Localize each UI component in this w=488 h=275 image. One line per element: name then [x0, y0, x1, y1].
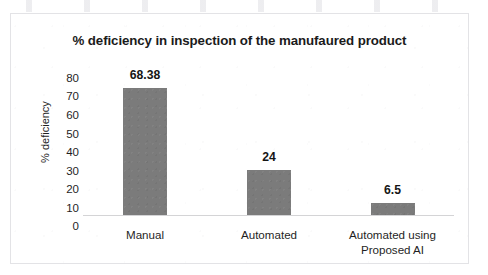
category-label-automated-ai: Automated using Proposed AI	[328, 227, 458, 257]
y-axis-tick-labels: 80 70 60 50 40 30 20 10 0	[51, 14, 79, 265]
scan-noise-band	[0, 0, 488, 12]
chart-figure: % deficiency in inspection of the manufa…	[10, 13, 469, 264]
category-label-automated-line1: Automated	[204, 227, 334, 242]
y-axis-title: % deficiency	[39, 77, 51, 187]
bar-group-automated-ai: 6.5 Automated using Proposed AI	[331, 14, 454, 265]
bar-automated-ai[interactable]	[371, 203, 415, 215]
y-tick-10: 10	[66, 203, 79, 215]
y-tick-60: 60	[66, 110, 79, 122]
category-label-automated-ai-line1: Automated using	[328, 227, 458, 242]
category-label-automated-ai-line2: Proposed AI	[328, 242, 458, 257]
bar-group-automated: 24 Automated	[207, 14, 331, 265]
y-tick-40: 40	[66, 147, 79, 159]
bar-value-automated: 24	[262, 151, 276, 163]
y-tick-50: 50	[66, 129, 79, 141]
y-tick-70: 70	[66, 91, 79, 103]
bar-value-automated-ai: 6.5	[384, 184, 401, 196]
bar-automated[interactable]	[247, 170, 291, 215]
y-tick-80: 80	[66, 73, 79, 85]
category-label-automated: Automated	[204, 227, 334, 242]
bar-manual[interactable]	[123, 88, 167, 215]
y-tick-20: 20	[66, 184, 79, 196]
category-label-manual-line1: Manual	[80, 227, 210, 242]
plot-area: 68.38 Manual 24 Automated 6.5 Automated …	[83, 14, 454, 265]
category-label-manual: Manual	[80, 227, 210, 242]
y-tick-0: 0	[73, 221, 79, 233]
bar-group-manual: 68.38 Manual	[83, 14, 207, 265]
bar-value-manual: 68.38	[130, 69, 161, 81]
y-tick-30: 30	[66, 166, 79, 178]
